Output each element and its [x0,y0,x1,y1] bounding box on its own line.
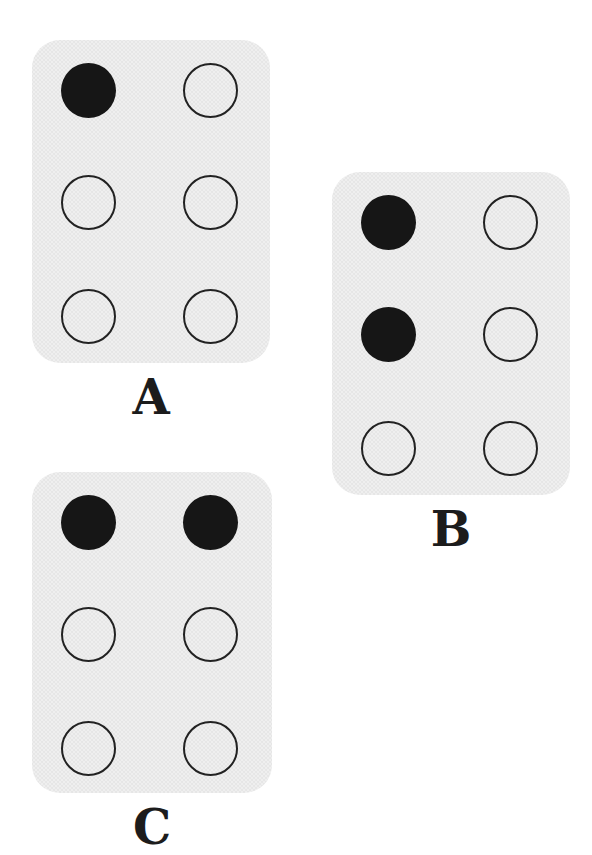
open-dot [183,607,238,662]
card-label: A [32,373,270,421]
card-face [32,472,272,793]
open-dot [483,307,538,362]
open-dot [61,607,116,662]
open-dot [183,175,238,230]
open-dot [183,289,238,344]
open-dot [183,721,238,776]
filled-dot [61,63,116,118]
filled-dot [361,307,416,362]
filled-dot [361,195,416,250]
card-label: B [332,505,570,553]
open-dot [61,289,116,344]
filled-dot [183,495,238,550]
open-dot [483,195,538,250]
card-label: C [32,803,272,851]
open-dot [361,421,416,476]
figure: A B C [0,0,592,855]
card: B [332,172,570,495]
card-face [332,172,570,495]
card: A [32,40,270,363]
open-dot [61,175,116,230]
open-dot [183,63,238,118]
open-dot [61,721,116,776]
filled-dot [61,495,116,550]
card-face [32,40,270,363]
open-dot [483,421,538,476]
card: C [32,472,272,793]
